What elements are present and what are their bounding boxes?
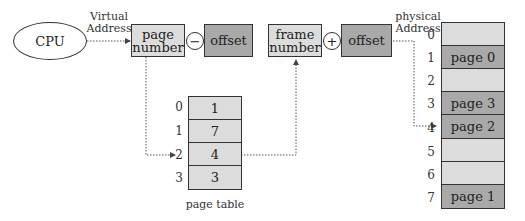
memory-frame xyxy=(441,138,505,162)
memory-frame xyxy=(441,22,505,46)
frame-number-box: frame number xyxy=(268,24,322,57)
frame-index: 7 xyxy=(424,191,438,205)
page-table-index: 3 xyxy=(172,171,186,185)
frame-index: 3 xyxy=(424,97,438,111)
memory-frame: page 2 xyxy=(441,114,505,139)
page-table-entry: 3 xyxy=(188,165,242,190)
page-table-entry: 4 xyxy=(188,142,242,166)
cpu-node: CPU xyxy=(13,22,87,60)
page-table-entry: 1 xyxy=(188,96,242,120)
page-table-entry: 7 xyxy=(188,119,242,143)
page-table-index: 1 xyxy=(172,124,186,138)
frame-index: 5 xyxy=(424,145,438,159)
frame-index: 1 xyxy=(424,51,438,65)
memory-frame xyxy=(441,161,505,185)
page-table-caption: page table xyxy=(180,199,250,211)
frame-index: 2 xyxy=(424,74,438,88)
memory-frame: page 0 xyxy=(441,45,505,69)
frame-index: 4 xyxy=(424,121,438,135)
page-table-index: 2 xyxy=(172,148,186,162)
memory-frame: page 1 xyxy=(441,184,505,209)
frame-index: 0 xyxy=(424,28,438,42)
memory-frame: page 3 xyxy=(441,91,505,115)
plus-operator-icon: + xyxy=(323,32,341,50)
page-number-box: page number xyxy=(131,24,185,57)
minus-operator-icon: − xyxy=(186,32,204,50)
memory-frame xyxy=(441,68,505,92)
offset-box: offset xyxy=(204,24,253,57)
virtual-address-label: Virtual Address xyxy=(86,11,132,35)
physical-offset-box: offset xyxy=(341,24,392,57)
cpu-label: CPU xyxy=(35,35,64,48)
frame-index: 6 xyxy=(424,168,438,182)
page-table-index: 0 xyxy=(172,100,186,114)
